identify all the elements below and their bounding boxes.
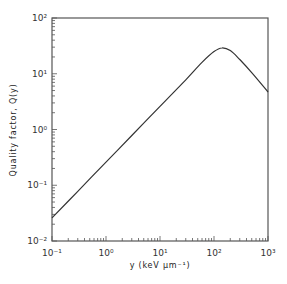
y-tick-label: 10⁻¹ [27, 180, 47, 190]
x-tick-label: 10⁻¹ [42, 248, 62, 258]
y-tick-label: 10⁰ [32, 125, 47, 135]
y-axis-label: Quality factor, Q(y) [9, 84, 18, 177]
x-tick-label: 10³ [260, 248, 275, 258]
y-tick-label: 10⁻² [27, 236, 47, 246]
tick-labels: 10⁻¹10⁰10¹10²10³10⁻²10⁻¹10⁰10¹10² [27, 13, 276, 258]
chart: 10⁻¹10⁰10¹10²10³10⁻²10⁻¹10⁰10¹10² Qualit… [0, 0, 287, 284]
x-axis-label: y (keV µm⁻¹) [130, 261, 191, 270]
x-tick-label: 10⁰ [98, 248, 113, 258]
x-tick-label: 10² [206, 248, 221, 258]
y-tick-label: 10¹ [32, 69, 47, 79]
plot-border [52, 18, 268, 241]
x-tick-label: 10¹ [152, 248, 167, 258]
plot-frame [52, 18, 268, 241]
y-tick-label: 10² [32, 13, 47, 23]
axis-ticks [52, 18, 268, 241]
quality-factor-curve [52, 48, 268, 218]
